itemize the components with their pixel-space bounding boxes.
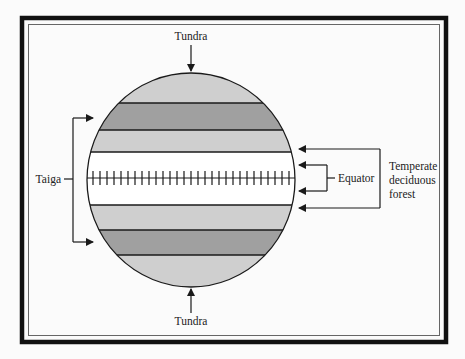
band-temperate-south <box>80 205 305 230</box>
band-taiga-north <box>80 103 305 130</box>
label-taiga: Taiga <box>36 173 61 186</box>
biome-diagram: Tundra Tundra Taiga Equator Temperate de… <box>0 0 465 359</box>
label-temperate-forest: Temperate deciduous forest <box>389 160 440 200</box>
label-temperate-line3: forest <box>389 188 416 200</box>
band-temperate-north <box>80 130 305 152</box>
label-tundra-bottom: Tundra <box>175 315 208 327</box>
label-tundra-top: Tundra <box>175 30 208 42</box>
equator-bracket <box>299 165 335 191</box>
band-tundra-north <box>80 70 305 103</box>
label-temperate-line1: Temperate <box>389 160 437 173</box>
label-temperate-line2: deciduous <box>389 174 436 186</box>
label-equator: Equator <box>338 172 375 185</box>
band-tundra-south <box>80 255 305 290</box>
